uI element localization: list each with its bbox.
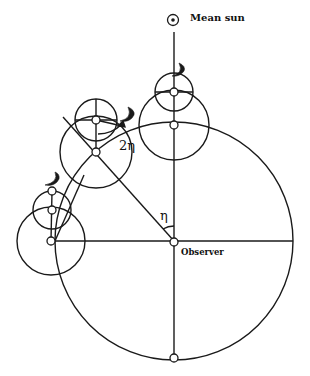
node-left-top [48,187,56,195]
node-left-small [48,206,56,214]
observer-label: Observer [181,247,224,257]
node-observer [170,238,178,246]
node-top-small [170,88,178,96]
eta-label: η [160,208,168,223]
node-diagonal-small [92,116,100,124]
two-eta-label: 2η [119,138,135,153]
node-diagonal-big [92,148,100,156]
left-connector [51,191,52,241]
node-top-big [170,121,178,129]
eta-arc [163,226,174,229]
node-bottom [170,354,178,362]
two-eta-arrowhead [118,121,125,127]
moon-left-icon [45,172,59,185]
mean-sun-icon [168,15,179,26]
node-left-big [47,237,55,245]
epicycle-diagram [0,0,310,376]
mean-sun-label: Mean sun [190,12,245,23]
moon-diagonal-icon [120,107,134,121]
